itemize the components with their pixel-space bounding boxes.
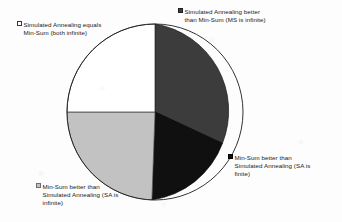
pie-label-ms-better-finite: Min-Sum better than Simulated Annealing … [228,154,310,178]
pie-slice-equal[interactable] [67,24,155,112]
pie-label-sa-better-line2: than Min-Sum (MS is infinite) [178,16,266,24]
light-gray-square-marker-icon [36,183,41,188]
pie-label-ms-better-finite-line3: finite) [228,170,310,178]
dark-gray-square-marker-icon [178,8,183,13]
pie-chart-area: Simulated Annealing better than Min-Sum … [0,0,342,222]
pie-label-sa-better: Simulated Annealing better than Min-Sum … [178,8,266,24]
pie-slices [67,24,243,200]
pie-label-equal: Simulated Annealing equals Min-Sum (both… [17,21,101,37]
white-square-marker-icon [17,21,22,26]
pie-label-ms-better-infinite-line3: infinite) [36,199,118,207]
pie-label-ms-better-infinite-line1: Min-Sum better than [42,183,99,190]
pie-label-ms-better-finite-line2: Simulated Annealing (SA is [228,162,310,170]
black-square-marker-icon [228,154,233,159]
pie-label-ms-better-infinite: Min-Sum better than Simulated Annealing … [36,183,118,207]
pie-label-ms-better-finite-line1: Min-Sum better than [234,154,291,161]
pie-label-equal-line2: Min-Sum (both infinite) [17,29,101,37]
pie-label-sa-better-line1: Simulated Annealing better [184,8,260,15]
pie-label-ms-better-infinite-line2: Simulated Annealing (SA is [36,191,118,199]
pie-label-equal-line1: Simulated Annealing equals [23,21,101,28]
